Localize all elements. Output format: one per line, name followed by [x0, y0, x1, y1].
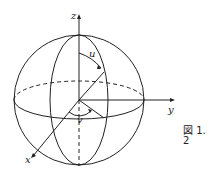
y-label: y [168, 105, 174, 115]
sphere-figure: z y x u v 図 1. 2 [0, 0, 215, 176]
v-label: v [77, 115, 83, 125]
u-label: u [89, 49, 95, 59]
x-label: x [25, 155, 31, 165]
v-arrow-icon [88, 109, 92, 113]
sphere-diagram [0, 0, 215, 176]
radius-line [79, 72, 104, 100]
z-arrow-icon [77, 14, 81, 19]
figure-caption: 図 1. 2 [183, 126, 215, 146]
y-arrow-icon [170, 98, 175, 102]
z-label: z [71, 11, 76, 21]
x-axis [33, 100, 79, 156]
